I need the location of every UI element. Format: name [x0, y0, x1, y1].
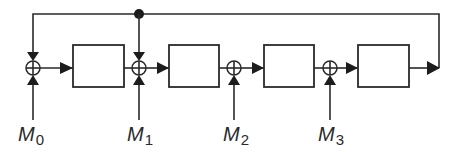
arrow-down-icon — [27, 52, 39, 61]
input-label-m3: M3 — [318, 123, 344, 148]
feedback-shift-register-diagram: M0 M1 M2 M3 — [0, 0, 468, 158]
arrow-up-icon — [324, 75, 336, 85]
xor-adder-0 — [26, 61, 40, 75]
arrow-right-icon — [427, 61, 440, 75]
input-label-m1: M1 — [127, 123, 153, 148]
arrow-right-icon — [60, 62, 73, 74]
xor-adder-3 — [323, 61, 337, 75]
arrow-down-icon — [133, 52, 145, 61]
register-block-4 — [358, 45, 409, 87]
xor-adder-1 — [132, 61, 146, 75]
input-label-m0: M0 — [18, 123, 44, 148]
arrow-right-icon — [157, 62, 169, 74]
input-label-m2: M2 — [223, 123, 249, 148]
register-block-1 — [73, 45, 124, 87]
xor-adder-2 — [227, 61, 241, 75]
arrow-up-icon — [27, 75, 39, 85]
register-block-3 — [264, 45, 314, 87]
register-block-2 — [169, 45, 219, 87]
arrow-up-icon — [133, 75, 145, 85]
arrow-up-icon — [228, 75, 240, 85]
arrow-right-icon — [252, 62, 264, 74]
arrow-right-icon — [346, 62, 358, 74]
